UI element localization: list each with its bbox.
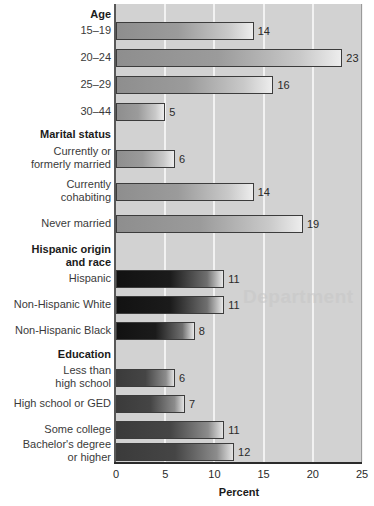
- bar-value-label: 11: [228, 270, 239, 288]
- bar-value-label: 11: [228, 421, 239, 439]
- bar: [116, 443, 234, 461]
- gridline-15: [263, 4, 265, 462]
- category-label: 15–19: [80, 24, 111, 37]
- category-label: 25–29: [80, 78, 111, 91]
- category-label: Currently or formerly married: [31, 145, 111, 170]
- x-tick-label-0: 0: [101, 468, 131, 480]
- bar-value-label: 12: [238, 443, 250, 461]
- bar-value-label: 14: [258, 183, 270, 201]
- bar-value-label: 5: [169, 103, 175, 121]
- bar: [116, 369, 175, 387]
- x-axis-line: [114, 462, 362, 464]
- category-label: Hispanic: [69, 272, 111, 285]
- x-tick-label-10: 10: [199, 468, 229, 480]
- bar: [116, 183, 254, 201]
- bar-value-label: 19: [307, 215, 319, 233]
- bar-value-label: 23: [346, 49, 358, 67]
- category-label: Bachelor's degree or higher: [23, 438, 111, 463]
- group-header: Marital status: [40, 128, 111, 141]
- bar: [116, 103, 165, 121]
- bar-value-label: 11: [228, 296, 239, 314]
- bar-value-label: 6: [179, 369, 185, 387]
- plot-area: [116, 4, 362, 462]
- x-tick-label-5: 5: [150, 468, 180, 480]
- x-tick-label-15: 15: [249, 468, 279, 480]
- bar-value-label: 16: [277, 76, 289, 94]
- bar: [116, 395, 185, 413]
- category-label: 20–24: [80, 51, 111, 64]
- category-label: Currently cohabiting: [61, 178, 111, 203]
- group-header: Education: [58, 348, 111, 361]
- bar-value-label: 6: [179, 150, 185, 168]
- bar: [116, 150, 175, 168]
- category-label-column: Age15–1920–2425–2930–44Marital statusCur…: [0, 0, 111, 466]
- gridline-10: [213, 4, 215, 462]
- bar-value-label: 7: [189, 395, 195, 413]
- bar: [116, 49, 342, 67]
- category-label: Never married: [41, 217, 111, 230]
- plot-right-edge: [361, 4, 362, 462]
- category-label: Less than high school: [55, 364, 111, 389]
- category-label: Non-Hispanic Black: [15, 324, 111, 337]
- x-tick-label-20: 20: [298, 468, 328, 480]
- bar: [116, 22, 254, 40]
- bar-chart: Department Age15–1920–2425–2930–44Marita…: [0, 0, 374, 506]
- bar: [116, 421, 224, 439]
- gridline-20: [312, 4, 314, 462]
- x-axis-title: Percent: [116, 486, 362, 498]
- bar-value-label: 14: [258, 22, 270, 40]
- category-label: Some college: [44, 423, 111, 436]
- gridline-5: [164, 4, 166, 462]
- bar-value-label: 8: [199, 322, 205, 340]
- x-tick-label-25: 25: [347, 468, 374, 480]
- group-header: Hispanic origin and race: [32, 243, 111, 268]
- bar: [116, 270, 224, 288]
- category-label: Non-Hispanic White: [14, 298, 111, 311]
- bar: [116, 76, 273, 94]
- bar: [116, 322, 195, 340]
- bar: [116, 296, 224, 314]
- category-label: 30–44: [80, 105, 111, 118]
- category-label: High school or GED: [14, 397, 111, 410]
- bar: [116, 215, 303, 233]
- group-header: Age: [90, 8, 111, 21]
